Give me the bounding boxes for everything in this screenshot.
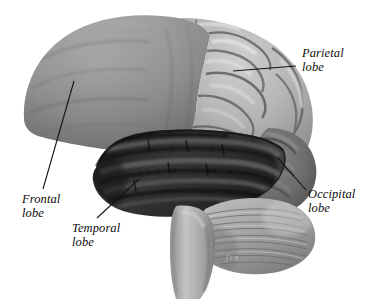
occipital-lobe-label: Occipital lobe <box>308 188 355 215</box>
frontal-lobe-label: Frontal lobe <box>22 193 60 220</box>
temporal-lobe-label: Temporal lobe <box>72 222 120 249</box>
artist-signature: ʃɛʙ <box>226 252 239 262</box>
parietal-lobe-label: Parietal lobe <box>302 47 344 74</box>
brain-anatomy-figure: Parietal lobe Occipital lobe Frontal lob… <box>0 0 371 301</box>
